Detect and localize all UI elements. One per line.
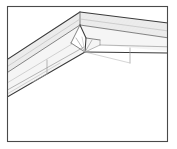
roof-corner-detail-drawing [0, 0, 177, 149]
figure-container: Roof ridge corner construction detail [0, 0, 177, 149]
